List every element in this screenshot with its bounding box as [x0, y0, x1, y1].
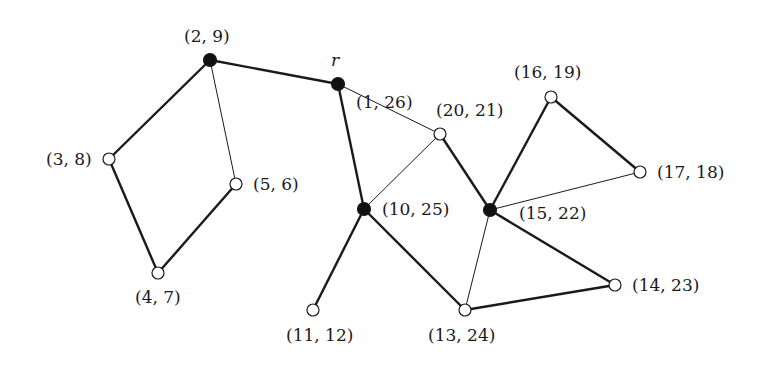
node-label-n15_22: (15, 22)	[519, 205, 586, 222]
node-label-n2_9: (2, 9)	[184, 28, 230, 45]
non-tree-edge-n20_21-n10_25	[364, 134, 440, 209]
non-tree-edge-n15_22-n13_24	[465, 210, 490, 310]
node-label-n14_23: (14, 23)	[632, 277, 699, 294]
root-label: r	[331, 52, 339, 69]
tree-edge-n10_25-n13_24	[364, 209, 465, 310]
node-label-n3_8: (3, 8)	[46, 151, 92, 168]
graph-node-n10_25	[358, 203, 371, 216]
graph-node-n20_21	[434, 128, 446, 140]
node-label-n1_26: (1, 26)	[356, 94, 413, 111]
node-label-n20_21: (20, 21)	[436, 102, 503, 119]
graph-node-n16_19	[545, 91, 557, 103]
tree-edge-n4_7-n5_6	[158, 184, 236, 273]
tree-edge-n2_9-n1_26	[210, 60, 338, 84]
node-label-n16_19: (16, 19)	[514, 64, 581, 81]
tree-edge-n13_24-n14_23	[465, 285, 615, 310]
graph-node-n1_26	[332, 78, 345, 91]
node-label-n4_7: (4, 7)	[135, 289, 181, 306]
graph-edges-and-nodes	[0, 0, 764, 370]
node-label-n11_12: (11, 12)	[286, 327, 353, 344]
graph-node-n15_22	[484, 204, 497, 217]
graph-diagram: r (2, 9)(1, 26)(3, 8)(5, 6)(4, 7)(20, 21…	[0, 0, 764, 370]
graph-node-n4_7	[152, 267, 164, 279]
node-label-n17_18: (17, 18)	[657, 164, 724, 181]
non-tree-edge-n2_9-n5_6	[210, 60, 236, 184]
graph-node-n11_12	[307, 304, 319, 316]
tree-edge-n16_19-n17_18	[551, 97, 640, 172]
tree-edge-n10_25-n11_12	[313, 209, 364, 310]
graph-node-n2_9	[204, 54, 217, 67]
graph-node-n17_18	[634, 166, 646, 178]
tree-edge-n2_9-n3_8	[109, 60, 210, 159]
tree-edge-n3_8-n4_7	[109, 159, 158, 273]
graph-node-n3_8	[103, 153, 115, 165]
node-label-n10_25: (10, 25)	[382, 201, 449, 218]
graph-node-n14_23	[609, 279, 621, 291]
graph-node-n5_6	[230, 178, 242, 190]
graph-node-n13_24	[459, 304, 471, 316]
node-label-n5_6: (5, 6)	[253, 176, 299, 193]
node-label-n13_24: (13, 24)	[428, 327, 495, 344]
